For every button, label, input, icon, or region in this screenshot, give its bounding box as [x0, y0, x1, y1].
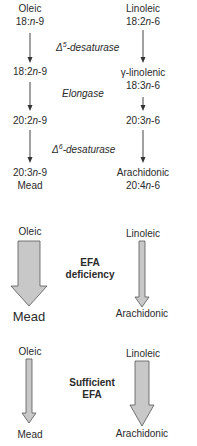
formula-part: 20:2 [13, 115, 32, 126]
efa-deficiency-oleic-label: Oleic [8, 226, 52, 238]
efa-deficiency-mead-label: Mead [4, 309, 54, 324]
arachidonic-formula: 20:4n-6 [108, 180, 178, 192]
delta6-desaturase-label: Δ6-desaturase [52, 141, 115, 156]
20-3n-6-formula: 20:3n-6 [113, 115, 173, 127]
wide-arrow-oleic-to-mead [11, 241, 47, 306]
20-2n-9-formula: 20:2n-9 [5, 115, 55, 127]
formula-part: 18:2 [13, 66, 32, 77]
gamma-linolenic-formula: 18:3n-6 [108, 80, 178, 92]
formula-part: -6 [151, 16, 160, 27]
oleic-label: Oleic [8, 3, 52, 15]
enzyme-text: -desaturase [67, 42, 120, 53]
efa-deficiency-linoleic-label: Linoleic [113, 228, 173, 240]
delta5-desaturase-label: Δ5-desaturase [56, 39, 119, 54]
formula-part: 20:3 [13, 167, 32, 178]
delta-symbol: Δ [56, 42, 63, 53]
formula-part: 18:3 [126, 80, 145, 91]
formula-part: -6 [151, 80, 160, 91]
formula-part: -9 [38, 66, 47, 77]
narrow-arrow-linoleic-to-arachidonic [135, 241, 149, 307]
formula-part: -6 [151, 180, 160, 191]
narrow-arrow-oleic-to-mead [22, 359, 36, 423]
sufficient-efa-mead-label: Mead [8, 429, 52, 441]
sufficient-efa-linoleic-label: Linoleic [113, 348, 173, 360]
linoleic-formula: 18:2n-6 [113, 16, 173, 28]
linoleic-label: Linoleic [113, 3, 173, 15]
18-2n-9-formula: 18:2n-9 [5, 66, 55, 78]
formula-part: 18:2 [126, 16, 145, 27]
sufficient-efa-arachidonic-label: Arachidonic [106, 428, 178, 440]
formula-part: 18: [16, 16, 30, 27]
gamma-linolenic-label: γ-linolenic [108, 67, 178, 79]
enzyme-text: -desaturase [63, 144, 116, 155]
20-3n-9-formula: 20:3n-9 [5, 167, 55, 179]
oleic-formula: 18:n-9 [8, 16, 52, 28]
efa-deficiency-title-line1: EFA [60, 257, 120, 269]
formula-part: -9 [38, 115, 47, 126]
sufficient-efa-oleic-label: Oleic [8, 346, 52, 358]
arachidonic-label: Arachidonic [108, 167, 178, 179]
sufficient-efa-title-line2: EFA [60, 389, 124, 401]
wide-arrow-linoleic-to-arachidonic [130, 361, 154, 426]
formula-part: -6 [151, 115, 160, 126]
formula-part: -9 [35, 16, 44, 27]
efa-deficiency-arachidonic-label: Arachidonic [106, 308, 178, 320]
delta-symbol: Δ [52, 144, 59, 155]
efa-deficiency-title-line2: deficiency [60, 269, 120, 281]
formula-part: -9 [38, 167, 47, 178]
sufficient-efa-title-line1: Sufficient [60, 377, 124, 389]
formula-part: 20:4 [126, 180, 145, 191]
formula-part: 20:3 [126, 115, 145, 126]
mead-label: Mead [5, 180, 55, 192]
elongase-label: Elongase [62, 88, 104, 100]
